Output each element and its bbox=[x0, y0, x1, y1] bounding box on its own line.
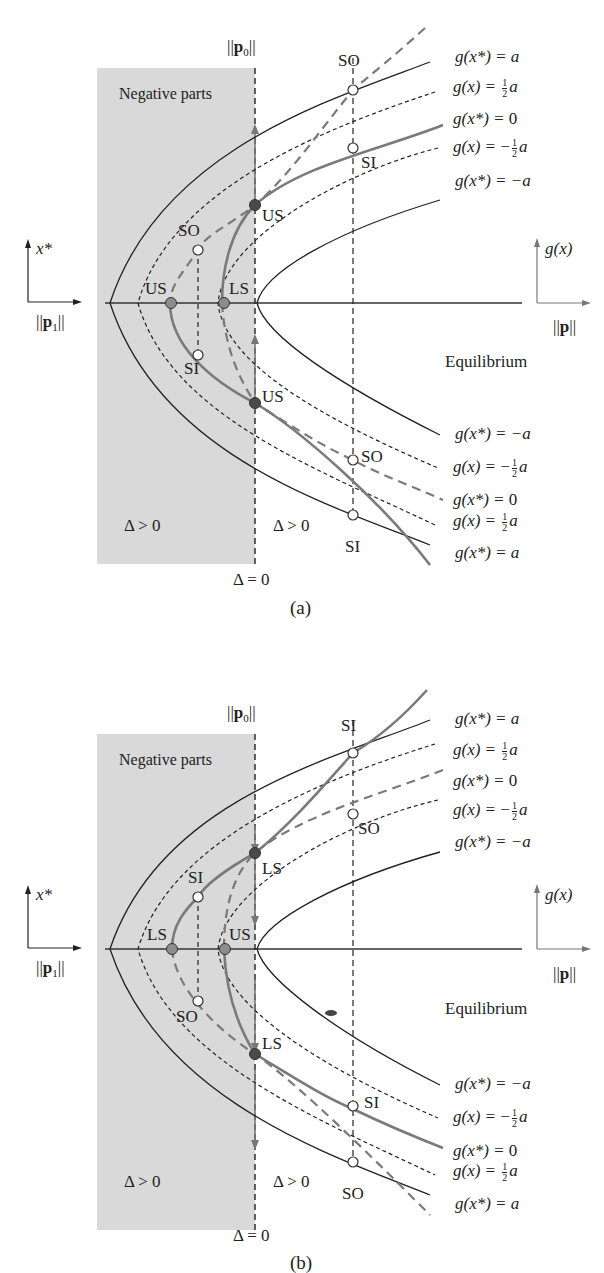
label-so: SO bbox=[338, 52, 360, 69]
label-ls: LS bbox=[262, 860, 282, 877]
eq-g-star-zero: g(x*) = 0 bbox=[453, 491, 517, 508]
point-si-top bbox=[348, 748, 358, 758]
label-ls: LS bbox=[262, 1035, 282, 1052]
point-so-lower bbox=[348, 455, 358, 465]
arrow-up-icon bbox=[534, 238, 540, 247]
equilibrium-label: Equilibrium bbox=[445, 353, 527, 370]
eq-g-star-a: g(x*) = a bbox=[455, 710, 519, 727]
eq-g-half-a: g(x) = 12a bbox=[453, 78, 518, 99]
point-us-lower bbox=[250, 398, 261, 409]
eq-g-neg-half-a: g(x) = −12a bbox=[453, 801, 527, 822]
p-axis-label: ||p|| bbox=[553, 318, 576, 335]
arrow-up-icon bbox=[534, 884, 540, 893]
panel-a: Negative parts ||p0|| ||p1|| x* g(x) ||p… bbox=[0, 0, 604, 640]
g-x-label: g(x) bbox=[545, 886, 572, 903]
equilibrium-label: Equilibrium bbox=[445, 1000, 527, 1017]
x-star-label: x* bbox=[36, 240, 52, 257]
label-ls: LS bbox=[147, 926, 167, 943]
p1-axis-label: ||p1|| bbox=[36, 313, 65, 333]
eq-g-neg-half-a: g(x) = −12a bbox=[453, 1108, 527, 1129]
point-si-bottom bbox=[348, 510, 358, 520]
point-us-axis bbox=[166, 298, 177, 309]
eq-g-star-zero: g(x*) = 0 bbox=[453, 110, 517, 127]
curve-dashed-upper bbox=[224, 770, 443, 949]
negative-parts-label: Negative parts bbox=[119, 86, 212, 102]
eq-g-star-a: g(x*) = a bbox=[455, 1195, 519, 1212]
negative-region-shade bbox=[97, 734, 255, 1230]
point-so-top bbox=[348, 85, 358, 95]
p1-axis-label: ||p1|| bbox=[36, 959, 65, 979]
negative-parts-label: Negative parts bbox=[119, 752, 212, 768]
arrow-up-icon bbox=[25, 885, 31, 894]
x-star-label: x* bbox=[36, 886, 52, 903]
eq-g-star-a: g(x*) = a bbox=[455, 48, 519, 65]
eq-g-star-neg-a: g(x*) = −a bbox=[455, 172, 531, 189]
p0-axis-label: ||p0|| bbox=[227, 704, 256, 724]
eq-g-star-zero: g(x*) = 0 bbox=[453, 772, 517, 789]
delta-zero-label: Δ = 0 bbox=[233, 1227, 270, 1244]
eq-g-star-a: g(x*) = a bbox=[455, 544, 519, 561]
delta-zero-label: Δ = 0 bbox=[233, 571, 270, 588]
point-si-lower bbox=[348, 1101, 358, 1111]
label-us: US bbox=[229, 926, 251, 943]
eq-g-neg-half-a: g(x) = −12a bbox=[453, 138, 527, 159]
delta-right-label: Δ > 0 bbox=[273, 1173, 310, 1190]
arrow-right-icon bbox=[582, 300, 591, 306]
point-si-left bbox=[193, 892, 203, 902]
arrow-up-icon bbox=[25, 239, 31, 248]
eq-g-star-neg-a: g(x*) = −a bbox=[455, 1075, 531, 1092]
point-so-left bbox=[193, 245, 203, 255]
label-si: SI bbox=[184, 360, 199, 377]
g-x-label: g(x) bbox=[545, 240, 572, 257]
eq-g-star-neg-a: g(x*) = −a bbox=[455, 833, 531, 850]
negative-region-shade bbox=[97, 68, 255, 564]
label-so: SO bbox=[361, 448, 383, 465]
curve-g-star-neg-a bbox=[257, 852, 440, 1085]
label-so: SO bbox=[358, 820, 380, 837]
label-si: SI bbox=[188, 869, 203, 886]
point-ls-axis bbox=[167, 944, 178, 955]
eq-g-star-neg-a: g(x*) = −a bbox=[455, 425, 531, 442]
arrow-right-icon bbox=[73, 299, 82, 305]
arrow-right-icon bbox=[582, 946, 591, 952]
point-so-left bbox=[193, 996, 203, 1006]
label-si: SI bbox=[345, 538, 360, 555]
label-so: SO bbox=[176, 1008, 198, 1025]
label-si: SI bbox=[361, 154, 376, 171]
point-us-axis bbox=[220, 944, 231, 955]
eq-g-half-a: g(x) = 12a bbox=[453, 512, 518, 533]
label-so: SO bbox=[178, 222, 200, 239]
eq-g-half-a: g(x) = 12a bbox=[453, 741, 518, 762]
point-so-mid bbox=[348, 809, 358, 819]
caption-a: (a) bbox=[290, 597, 311, 619]
point-so-bottom bbox=[348, 1157, 358, 1167]
arrow-right-icon bbox=[73, 945, 82, 951]
delta-left-label: Δ > 0 bbox=[124, 1173, 161, 1190]
p0-axis-label: ||p0|| bbox=[227, 38, 256, 58]
curve-g-star-neg-a bbox=[257, 200, 440, 435]
point-ls-lower bbox=[250, 1049, 261, 1060]
label-so: SO bbox=[342, 1185, 364, 1202]
label-ls: LS bbox=[229, 280, 249, 297]
smudge-mark bbox=[325, 1010, 337, 1016]
label-us: US bbox=[145, 280, 167, 297]
panel-b: Negative parts ||p0|| ||p1|| x* g(x) ||p… bbox=[0, 640, 604, 1273]
point-ls-upper bbox=[250, 848, 261, 859]
delta-left-label: Δ > 0 bbox=[124, 517, 161, 534]
p-axis-label: ||p|| bbox=[553, 965, 576, 982]
caption-b: (b) bbox=[290, 1252, 312, 1273]
eq-g-star-zero: g(x*) = 0 bbox=[453, 1142, 517, 1159]
point-si-mid bbox=[348, 143, 358, 153]
point-ls-axis bbox=[219, 298, 230, 309]
label-si: SI bbox=[341, 717, 356, 734]
delta-right-label: Δ > 0 bbox=[273, 517, 310, 534]
label-si: SI bbox=[364, 1094, 379, 1111]
label-us: US bbox=[262, 207, 284, 224]
eq-g-half-a: g(x) = 12a bbox=[453, 1162, 518, 1183]
eq-g-neg-half-a: g(x) = −12a bbox=[453, 458, 527, 479]
label-us: US bbox=[262, 388, 284, 405]
point-us-upper bbox=[250, 200, 261, 211]
